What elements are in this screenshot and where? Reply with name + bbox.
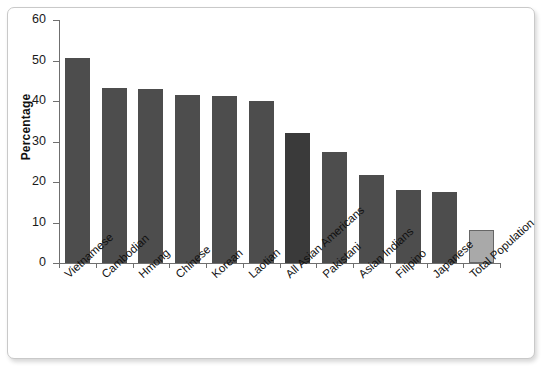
- y-tick-label: 0: [0, 256, 46, 269]
- y-tick-mark: [53, 142, 59, 143]
- x-tick-mark: [243, 263, 244, 268]
- x-tick-mark: [133, 263, 134, 268]
- y-tick-mark: [53, 182, 59, 183]
- y-tick-mark: [53, 223, 59, 224]
- bar-chart: Percentage 0102030405060 VietnameseCambo…: [0, 0, 550, 375]
- y-tick-label: 10: [0, 216, 46, 229]
- bar: [212, 96, 237, 263]
- bar: [285, 133, 310, 263]
- x-tick-mark: [463, 263, 464, 268]
- x-tick-mark: [96, 263, 97, 268]
- y-axis-line: [59, 20, 60, 264]
- x-tick-mark: [316, 263, 317, 268]
- x-tick-mark: [169, 263, 170, 268]
- y-tick-label: 50: [0, 54, 46, 67]
- x-tick-mark: [427, 263, 428, 268]
- x-tick-mark: [353, 263, 354, 268]
- x-tick-mark: [280, 263, 281, 268]
- x-tick-mark: [500, 263, 501, 268]
- bar: [249, 101, 274, 263]
- bar: [175, 95, 200, 263]
- bar: [65, 58, 90, 263]
- y-tick-label: 20: [0, 175, 46, 188]
- y-tick-mark: [53, 101, 59, 102]
- x-tick-mark: [59, 263, 60, 268]
- y-tick-label: 30: [0, 135, 46, 148]
- y-tick-mark: [53, 61, 59, 62]
- x-tick-mark: [390, 263, 391, 268]
- y-tick-label: 40: [0, 94, 46, 107]
- y-tick-label: 60: [0, 13, 46, 26]
- x-tick-mark: [206, 263, 207, 268]
- y-tick-mark: [53, 20, 59, 21]
